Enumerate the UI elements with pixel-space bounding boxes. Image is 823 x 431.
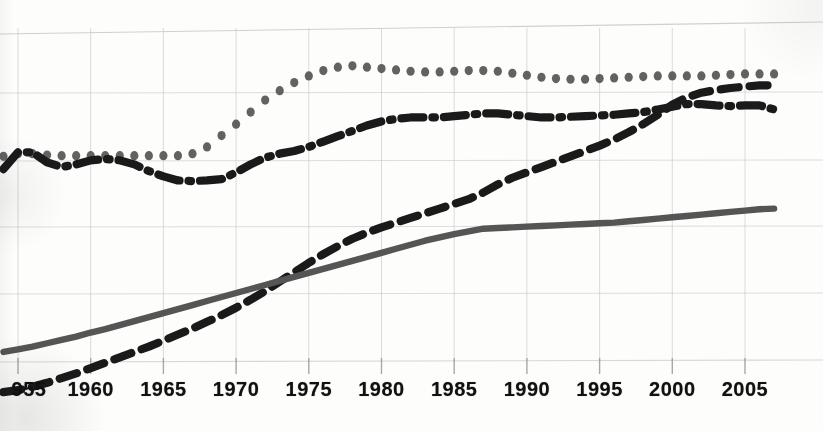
- x-tick-label-1980: 1980: [358, 378, 405, 401]
- x-tick-label-2000: 2000: [649, 378, 696, 401]
- dashed-series: [3, 85, 774, 392]
- x-tick-label-1975: 1975: [286, 378, 333, 401]
- solid-series: [3, 209, 774, 352]
- x-tick-label-1960: 1960: [67, 378, 114, 401]
- x-tick-label-2005: 2005: [722, 378, 769, 401]
- x-tick-label-1995: 1995: [576, 378, 623, 401]
- chart-plot-area: [0, 0, 823, 431]
- vertical-gridlines: [18, 28, 745, 362]
- x-tick-label-1970: 1970: [213, 378, 260, 401]
- x-tick-label-1955: 955: [12, 378, 47, 401]
- x-tick-label-1985: 1985: [431, 378, 478, 401]
- chart-container: 9551960196519701975198019851990199520002…: [0, 0, 823, 431]
- x-tick-label-1965: 1965: [140, 378, 187, 401]
- x-tick-label-1990: 1990: [504, 378, 551, 401]
